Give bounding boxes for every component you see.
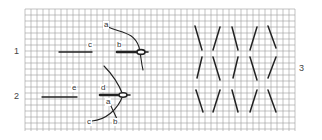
figure-number-3: 3 — [299, 64, 304, 73]
point-label-c: c — [87, 41, 93, 49]
figure-number-1: 1 — [14, 47, 19, 56]
needle-eye-icon — [119, 93, 127, 97]
point-label-a: a — [103, 21, 109, 29]
needle-eye-icon — [137, 50, 145, 55]
point-label-b: b — [112, 118, 118, 126]
point-label-e: e — [71, 84, 77, 92]
figure-number-2: 2 — [14, 92, 19, 101]
point-label-a: a — [105, 98, 111, 106]
point-label-c: c — [86, 118, 92, 126]
stitch-diagram — [0, 0, 322, 140]
point-label-d: d — [100, 84, 106, 92]
point-label-b: b — [116, 41, 122, 49]
